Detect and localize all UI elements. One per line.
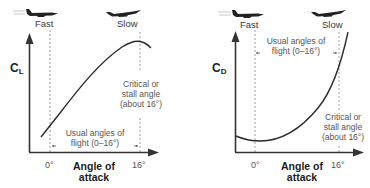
speed-label-slow: Slow bbox=[117, 19, 138, 29]
airplane-fast-icon bbox=[13, 9, 58, 17]
critical-line3: (about 16°) bbox=[318, 132, 368, 142]
tick-16-degrees: 16° bbox=[132, 160, 146, 170]
x-title-line2: attack bbox=[66, 172, 122, 183]
usual-line2: flight (0–16°) bbox=[262, 46, 330, 56]
critical-line2: stall angle bbox=[116, 89, 166, 99]
critical-angle-annotation: Critical or stall angle (about 16°) bbox=[318, 112, 368, 142]
x-axis-title: Angle of attack bbox=[274, 161, 330, 183]
drag-coefficient-label: CD bbox=[212, 61, 226, 76]
airplane-slow-icon bbox=[106, 10, 141, 17]
usual-line1: Usual angles of bbox=[62, 128, 128, 138]
x-title-line2: attack bbox=[274, 172, 330, 183]
y-label-sub: D bbox=[221, 67, 227, 76]
usual-line2: flight (0–16°) bbox=[62, 138, 128, 148]
tick-0-degrees: 0° bbox=[45, 160, 54, 170]
critical-line3: (about 16°) bbox=[116, 99, 166, 109]
critical-angle-annotation: Critical or stall angle (about 16°) bbox=[116, 79, 166, 109]
airplane-fast-icon bbox=[218, 10, 264, 18]
x-axis-title: Angle of attack bbox=[66, 161, 122, 183]
y-label-main: C bbox=[10, 61, 19, 75]
tick-0-degrees: 0° bbox=[251, 160, 260, 170]
critical-line2: stall angle bbox=[318, 122, 368, 132]
lift-drag-diagram: Fast Slow CL Critical or stall angle (ab… bbox=[0, 0, 370, 188]
usual-line1: Usual angles of bbox=[262, 36, 330, 46]
speed-label-fast: Fast bbox=[35, 19, 53, 29]
speed-label-fast: Fast bbox=[240, 20, 258, 30]
lift-coefficient-label: CL bbox=[10, 61, 24, 76]
tick-16-degrees: 16° bbox=[331, 160, 345, 170]
critical-line1: Critical or bbox=[318, 112, 368, 122]
critical-line1: Critical or bbox=[116, 79, 166, 89]
y-label-main: C bbox=[212, 61, 221, 75]
usual-angles-annotation: Usual angles of flight (0–16°) bbox=[262, 36, 330, 56]
speed-label-slow: Slow bbox=[322, 20, 343, 30]
usual-angles-annotation: Usual angles of flight (0–16°) bbox=[62, 128, 128, 148]
y-label-sub: L bbox=[19, 67, 24, 76]
airplane-slow-icon bbox=[311, 10, 346, 17]
